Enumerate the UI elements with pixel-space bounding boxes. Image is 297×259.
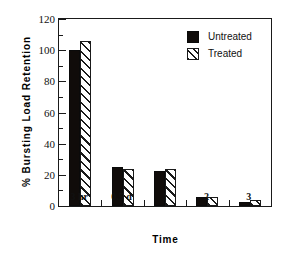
legend-label-treated: Treated [208,48,242,59]
x-tick-label: 3 [246,191,251,202]
legend-swatch-solid-icon [187,31,199,43]
y-tick-label: 60 [44,107,55,119]
y-tick-label: 80 [44,75,55,87]
x-tick [186,200,187,206]
y-tick-label: 120 [39,13,56,25]
bar-untreated-3 [239,202,250,206]
y-tick-minor [59,190,63,191]
bar-treated-1 [165,169,176,206]
legend-item-untreated: Untreated [187,29,252,44]
y-tick-minor [59,97,63,98]
y-axis-title: % Bursting Load Retention [21,12,32,212]
y-tick-label: 40 [44,138,55,150]
bar-treated-2 [207,197,218,206]
legend-swatch-hatched-icon [187,48,199,60]
y-tick-major [59,206,66,207]
y-tick-major [59,175,66,176]
y-tick-major [59,50,66,51]
bar-treated-3-hr [80,41,91,206]
y-tick-minor [59,128,63,129]
x-tick [229,200,230,206]
bursting-load-retention-chart: % Bursting Load Retention Time 020406080… [0,0,297,259]
x-tick [144,200,145,206]
x-tick-label: 1 [162,191,167,202]
y-tick-major [59,19,66,20]
x-tick [101,200,102,206]
bar-treated-3 [250,200,261,206]
x-tick-label: 2 [204,191,209,202]
x-axis-title: Time [58,234,273,245]
y-tick-minor [59,159,63,160]
chart-legend: Untreated Treated [187,29,252,63]
y-tick-major [59,81,66,82]
y-tick-minor [59,66,63,67]
x-tick-label: 0.5 d [111,191,132,202]
y-tick-minor [59,35,63,36]
y-tick-major [59,113,66,114]
y-tick-label: 20 [44,169,55,181]
y-tick-label: 100 [39,44,56,56]
x-tick-label: 3 hr [70,191,88,202]
legend-label-untreated: Untreated [208,31,252,42]
bar-untreated-3-hr [69,50,80,206]
legend-item-treated: Treated [187,46,252,61]
y-tick-label: 0 [50,200,56,212]
plot-area: 020406080100120 Untreated Treated [58,18,272,207]
y-tick-major [59,144,66,145]
